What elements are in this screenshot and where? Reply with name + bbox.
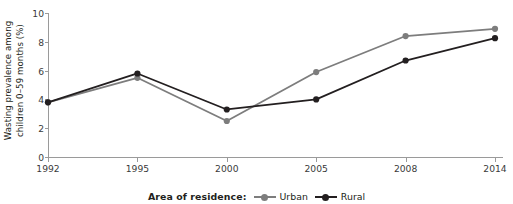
x-tick-mark (495, 158, 496, 162)
x-axis-line (48, 157, 503, 158)
chart-legend: Area of residence: Urban Rural (0, 191, 513, 202)
x-tick-label: 2008 (394, 163, 417, 174)
x-tick-mark (137, 158, 138, 162)
y-tick-label: 6 (22, 65, 44, 76)
legend-title: Area of residence: (148, 191, 247, 202)
series-line-urban (48, 29, 495, 121)
x-tick-label: 2014 (483, 163, 506, 174)
x-tick-label: 2005 (304, 163, 327, 174)
x-tick-mark (406, 158, 407, 162)
y-tick-label: 0 (22, 152, 44, 163)
y-tick-label: 4 (22, 94, 44, 105)
data-point (134, 75, 140, 81)
legend-swatch-rural (315, 192, 337, 201)
x-tick-mark (48, 158, 49, 162)
x-tick-label: 1992 (36, 163, 59, 174)
plot-area (0, 0, 513, 204)
y-axis-line (48, 13, 49, 158)
series-urban (45, 26, 498, 124)
legend-label-urban: Urban (280, 191, 308, 202)
y-tick-label: 8 (22, 36, 44, 47)
y-tick-label: 10 (22, 8, 44, 19)
y-axis-title-line1: Wasting prevalence among (4, 20, 14, 140)
data-point (492, 35, 498, 41)
legend-swatch-urban (254, 192, 276, 201)
x-tick-label: 1995 (126, 163, 149, 174)
x-tick-label: 2000 (215, 163, 238, 174)
x-tick-mark (227, 158, 228, 162)
data-point (134, 70, 140, 76)
data-point (313, 69, 319, 75)
chart-figure: Wasting prevalence among children 0–59 m… (0, 0, 513, 204)
y-tick-label: 2 (22, 123, 44, 134)
x-tick-mark (316, 158, 317, 162)
legend-label-rural: Rural (341, 191, 365, 202)
y-axis-title: Wasting prevalence among children 0–59 m… (0, 0, 30, 160)
legend-item-urban[interactable]: Urban (254, 191, 308, 202)
data-point (403, 33, 409, 39)
series-line-rural (48, 38, 495, 109)
data-point (313, 96, 319, 102)
series-rural (45, 35, 498, 112)
legend-item-rural[interactable]: Rural (315, 191, 365, 202)
data-point (224, 106, 230, 112)
data-point (224, 118, 230, 124)
data-point (403, 57, 409, 63)
data-point (492, 26, 498, 32)
